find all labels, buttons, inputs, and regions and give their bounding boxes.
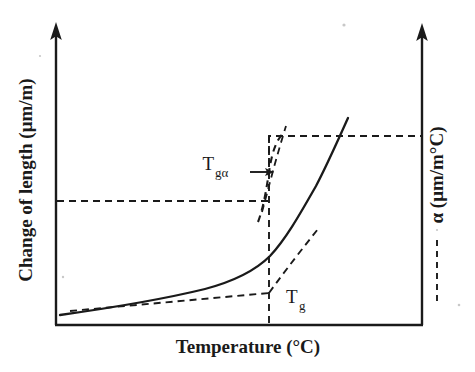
annotation-tg-base: T (286, 286, 298, 307)
annotation-tg-subscript: g (299, 298, 306, 313)
right-axis-title: α (μm/m°C) (426, 126, 448, 223)
figure-root: T gα T g Change of length (μm/m) α (μm/m… (0, 0, 475, 372)
dilatometry-schematic-chart: T gα T g Change of length (μm/m) α (μm/m… (0, 0, 475, 372)
series-change-of-length (60, 118, 348, 315)
annotation-tg-alpha-base: T (202, 153, 214, 174)
left-axis (50, 22, 62, 325)
series-cte-step (269, 136, 421, 165)
annotation-tg-alpha-subscript: gα (215, 165, 229, 180)
left-axis-title: Change of length (μm/m) (15, 78, 37, 281)
annotation-tg: T g (286, 286, 306, 313)
bottom-axis-title: Temperature (°C) (176, 336, 320, 358)
scan-artifacts (39, 23, 460, 306)
annotation-tg-alpha: T gα (202, 153, 228, 180)
series-rubbery-tangent (269, 229, 318, 293)
